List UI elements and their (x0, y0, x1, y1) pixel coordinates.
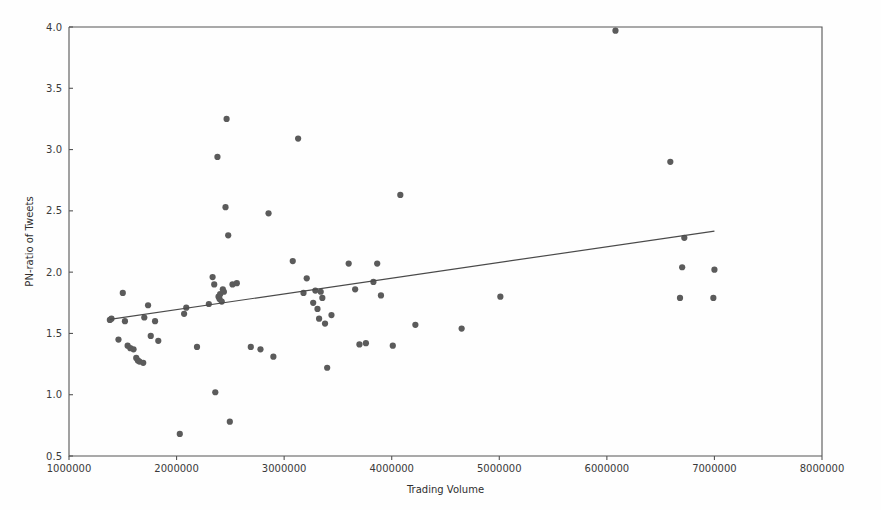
data-point (248, 344, 254, 350)
y-tick-label: 0.5 (46, 451, 62, 462)
data-point (148, 333, 154, 339)
data-point (316, 316, 322, 322)
axis-labels-group: 1000000200000030000004000000500000060000… (24, 22, 844, 496)
data-point (328, 312, 334, 318)
data-point (356, 341, 362, 347)
y-tick-label: 2.5 (46, 205, 62, 216)
data-point (412, 322, 418, 328)
data-point (667, 159, 673, 165)
y-tick-label: 3.0 (46, 144, 62, 155)
data-point (710, 295, 716, 301)
x-axis-title: Trading Volume (406, 484, 484, 495)
data-point (234, 280, 240, 286)
scatter-plot-figure: 1000000200000030000004000000500000060000… (0, 0, 881, 510)
axes-group (69, 27, 822, 460)
x-tick-label: 3000000 (262, 463, 307, 474)
data-point (209, 274, 215, 280)
data-point (390, 343, 396, 349)
data-point (314, 306, 320, 312)
data-point (304, 275, 310, 281)
y-tick-label: 2.0 (46, 267, 62, 278)
data-point (130, 346, 136, 352)
data-point (122, 318, 128, 324)
data-point (378, 292, 384, 298)
data-point (497, 294, 503, 300)
axis-spines (69, 27, 822, 456)
data-point (140, 360, 146, 366)
data-point (257, 346, 263, 352)
data-points-group (107, 28, 718, 437)
y-tick-label: 1.0 (46, 389, 62, 400)
data-point (679, 264, 685, 270)
x-tick-label: 6000000 (585, 463, 630, 474)
data-point (312, 287, 318, 293)
data-point (711, 267, 717, 273)
x-tick-label: 7000000 (692, 463, 737, 474)
data-point (223, 116, 229, 122)
data-point (227, 419, 233, 425)
x-tick-label: 4000000 (369, 463, 414, 474)
data-point (194, 344, 200, 350)
chart-canvas: 1000000200000030000004000000500000060000… (0, 0, 881, 510)
data-point (290, 258, 296, 264)
data-point (295, 135, 301, 141)
data-point (612, 28, 618, 34)
data-point (374, 260, 380, 266)
data-point (222, 204, 228, 210)
data-point (265, 210, 271, 216)
data-point (270, 354, 276, 360)
data-point (152, 318, 158, 324)
data-point (120, 290, 126, 296)
trendline-group (110, 231, 715, 319)
data-point (212, 389, 218, 395)
data-point (141, 314, 147, 320)
data-point (211, 281, 217, 287)
y-tick-label: 3.5 (46, 83, 62, 94)
data-point (310, 300, 316, 306)
data-point (397, 192, 403, 198)
x-tick-label: 1000000 (47, 463, 92, 474)
data-point (177, 431, 183, 437)
data-point (370, 279, 376, 285)
data-point (677, 295, 683, 301)
data-point (346, 260, 352, 266)
data-point (181, 311, 187, 317)
data-point (459, 325, 465, 331)
data-point (319, 295, 325, 301)
x-tick-label: 5000000 (477, 463, 522, 474)
x-tick-label: 8000000 (800, 463, 845, 474)
data-point (221, 289, 227, 295)
axis-frame (69, 27, 822, 456)
regression-trendline (110, 231, 715, 319)
data-point (363, 340, 369, 346)
data-point (145, 302, 151, 308)
data-point (318, 289, 324, 295)
data-point (352, 286, 358, 292)
data-point (115, 336, 121, 342)
x-tick-label: 2000000 (154, 463, 199, 474)
data-point (324, 365, 330, 371)
data-point (225, 232, 231, 238)
data-point (155, 338, 161, 344)
data-point (214, 154, 220, 160)
data-point (322, 321, 328, 327)
y-tick-label: 1.5 (46, 328, 62, 339)
y-tick-label: 4.0 (46, 22, 62, 33)
y-axis-title: PN-ratio of Tweets (24, 196, 35, 286)
